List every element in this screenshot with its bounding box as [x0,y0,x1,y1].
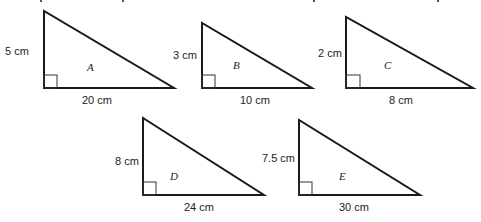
triangle-c: 2 cm 8 cm C [318,17,473,106]
triangle-name: E [338,170,346,182]
right-angle-marker [299,182,312,195]
triangle-b: 3 cm 10 cm B [173,23,312,106]
triangle-d: 8 cm 24 cm D [115,118,264,213]
right-angle-marker [346,75,360,88]
height-label: 3 cm [173,49,197,61]
height-label: 5 cm [5,45,29,57]
triangle-name: D [169,170,178,182]
triangles-diagram: 5 cm 20 cm A 3 cm 10 cm B 2 cm 8 cm C 8 … [0,0,481,222]
height-label: 2 cm [318,47,342,59]
base-label: 10 cm [240,94,270,106]
triangle-a: 5 cm 20 cm A [5,11,174,106]
triangle-name: C [384,59,392,71]
right-triangles-figure: 5 cm 20 cm A 3 cm 10 cm B 2 cm 8 cm C 8 … [0,0,481,222]
cropped-text-mark [122,0,124,2]
base-label: 24 cm [184,201,214,213]
height-label: 8 cm [115,155,139,167]
triangle-d-shape [143,118,264,195]
triangle-e: 7.5 cm 30 cm E [262,120,420,213]
triangle-c-shape [346,17,473,88]
base-label: 8 cm [389,94,413,106]
base-label: 20 cm [82,94,112,106]
height-label: 7.5 cm [262,152,295,164]
triangle-e-shape [299,120,420,195]
triangle-name: A [86,61,94,73]
base-label: 30 cm [339,201,369,213]
triangle-b-shape [202,23,312,88]
triangle-a-shape [44,11,174,88]
cropped-text-mark [313,0,315,2]
triangle-name: B [233,59,240,71]
right-angle-marker [143,182,156,195]
right-angle-marker [44,75,57,88]
cropped-text-mark [40,0,42,2]
cropped-text-mark [437,0,439,2]
right-angle-marker [202,75,215,88]
